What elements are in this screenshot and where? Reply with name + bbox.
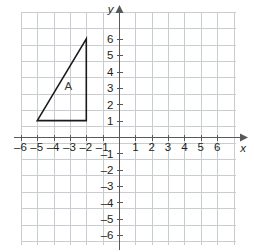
axes xyxy=(14,5,248,250)
x-axis-arrowhead xyxy=(240,134,248,142)
y-tick-label: –3 xyxy=(101,180,114,192)
y-tick-label: 5 xyxy=(107,49,113,61)
x-tick-label: –5 xyxy=(30,141,43,153)
y-tick-label: –6 xyxy=(101,229,114,241)
x-tick-label: 6 xyxy=(214,141,220,153)
y-tick-label: 1 xyxy=(107,115,113,127)
y-tick-label: –2 xyxy=(101,164,114,176)
y-tick-label: 2 xyxy=(107,99,113,111)
y-axis-arrowhead xyxy=(116,5,124,13)
x-tick-label: –6 xyxy=(14,141,27,153)
y-tick-label: –5 xyxy=(101,213,114,225)
y-tick-label: 6 xyxy=(107,33,113,45)
y-tick-label: 4 xyxy=(107,66,114,78)
x-tick-label: 2 xyxy=(148,141,154,153)
x-tick-label: 5 xyxy=(198,141,204,153)
y-axis-name-label: y xyxy=(107,3,115,15)
shape-label-a: A xyxy=(64,80,72,92)
x-axis-name-label: x xyxy=(239,142,247,154)
x-tick-label: –2 xyxy=(79,141,92,153)
x-tick-label: 3 xyxy=(165,141,171,153)
x-tick-label: –3 xyxy=(63,141,76,153)
y-tick-label: –1 xyxy=(101,148,114,160)
x-tick-label: 1 xyxy=(132,141,138,153)
plotted-shapes xyxy=(37,39,86,121)
axis-name-labels: xy xyxy=(107,3,247,154)
grid-lines xyxy=(21,12,236,245)
triangle-shape-a xyxy=(37,39,86,121)
x-tick-label: –4 xyxy=(47,141,60,153)
y-tick-label: –4 xyxy=(101,197,114,209)
coordinate-plane-svg: –6–5–4–3–2–1123456654321–1–2–3–4–5–6 xy … xyxy=(0,0,254,252)
x-tick-label: 4 xyxy=(181,141,188,153)
y-tick-label: 3 xyxy=(107,82,113,94)
coordinate-plane-figure: –6–5–4–3–2–1123456654321–1–2–3–4–5–6 xy … xyxy=(0,0,254,252)
shape-labels: A xyxy=(64,80,72,92)
